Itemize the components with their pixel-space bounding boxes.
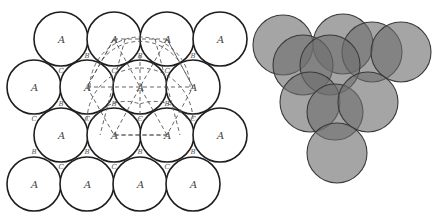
void-label-b: B <box>31 148 37 156</box>
shaded-sphere <box>338 72 398 132</box>
sphere-label: A <box>110 130 118 141</box>
void-label-b: B <box>84 148 90 156</box>
sphere-label: A <box>136 179 144 190</box>
shaded-sphere <box>307 123 367 183</box>
void-label-c: C <box>59 163 65 171</box>
void-label-c: C <box>32 115 38 123</box>
void-label-c: C <box>138 115 144 123</box>
void-label-b: B <box>137 148 143 156</box>
void-label-b: B <box>84 52 90 60</box>
sphere-label: A <box>57 130 65 141</box>
close-packing-diagram: AAAAAAAAAAAAAAAABBBCCCBBBCCCCBBBBCCC <box>0 0 442 221</box>
void-label-b: B <box>190 52 196 60</box>
sphere-label: A <box>30 82 38 93</box>
void-label-c: C <box>112 163 118 171</box>
shaded-sphere <box>371 22 431 82</box>
sphere-label: A <box>216 34 224 45</box>
void-label-c: C <box>191 115 197 123</box>
sphere-label: A <box>83 179 91 190</box>
sphere-label: A <box>216 130 224 141</box>
void-label-b: B <box>58 100 64 108</box>
void-label-c: C <box>165 67 171 75</box>
close-packed-layer: AAAAAAAAAAAAAAAABBBCCCBBBCCCCBBBBCCC <box>7 12 247 211</box>
void-label-b: B <box>190 148 196 156</box>
sphere-label: A <box>189 179 197 190</box>
sphere-label: A <box>57 34 65 45</box>
sphere-label: A <box>30 179 38 190</box>
sphere-label: A <box>163 130 171 141</box>
void-label-c: C <box>59 67 65 75</box>
stacked-spheres <box>253 14 431 183</box>
void-label-c: C <box>165 163 171 171</box>
void-label-b: B <box>111 100 117 108</box>
